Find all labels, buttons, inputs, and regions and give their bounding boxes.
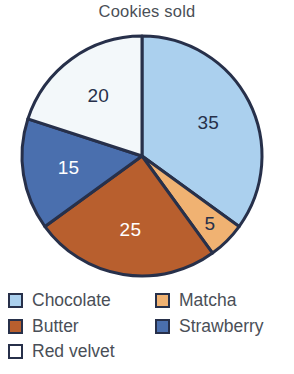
pie-chart-plot-area: 355251520 (0, 24, 294, 288)
legend-swatch-icon (155, 319, 170, 334)
legend-item-label: Red velvet (32, 343, 115, 361)
legend-row: Red velvet (8, 343, 294, 369)
chart-title: Cookies sold (0, 2, 294, 21)
legend-item-label: Chocolate (32, 292, 111, 310)
chart-legend: Chocolate Matcha Butter Strawberry Red v… (8, 292, 294, 372)
legend-item-red-velvet[interactable]: Red velvet (8, 343, 155, 361)
legend-item-butter[interactable]: Butter (8, 318, 155, 336)
pie-slices-group (22, 36, 262, 276)
pie-slice-value-label: 15 (58, 157, 80, 178)
legend-row: Butter Strawberry (8, 318, 294, 344)
pie-slice-value-label: 35 (197, 112, 219, 133)
legend-item-label: Butter (32, 318, 79, 336)
legend-row: Chocolate Matcha (8, 292, 294, 318)
pie-chart-figure: Cookies sold 355251520 Chocolate Matcha … (0, 0, 294, 374)
legend-swatch-icon (155, 293, 170, 308)
pie-slice-value-label: 20 (87, 85, 109, 106)
legend-item-label: Matcha (179, 292, 236, 310)
pie-slice-value-label: 5 (204, 213, 215, 234)
legend-item-matcha[interactable]: Matcha (155, 292, 294, 310)
legend-swatch-icon (8, 293, 23, 308)
legend-item-strawberry[interactable]: Strawberry (155, 318, 294, 336)
legend-item-label: Strawberry (179, 318, 264, 336)
pie-chart-svg: 355251520 (0, 24, 294, 288)
legend-item-chocolate[interactable]: Chocolate (8, 292, 155, 310)
pie-slice-value-label: 25 (120, 219, 142, 240)
legend-swatch-icon (8, 344, 23, 359)
legend-swatch-icon (8, 319, 23, 334)
